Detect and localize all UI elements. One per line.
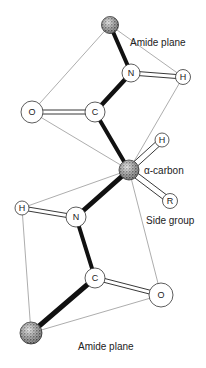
backbone-bonds: [31, 25, 131, 333]
atom-h-top: H: [176, 70, 191, 85]
atom-c-bottom: C: [85, 268, 105, 288]
svg-text:N: N: [128, 68, 135, 78]
atom-n-top: N: [122, 64, 140, 82]
peptide-diagram: N H O C H R H N C O Amide plane α-carbon…: [0, 0, 206, 368]
alpha-carbon-mid: [119, 160, 139, 180]
atom-h-alpha: H: [155, 133, 169, 147]
atom-n-bottom: N: [66, 207, 86, 227]
svg-text:H: H: [19, 203, 26, 213]
atom-o-bottom: O: [149, 283, 173, 307]
svg-text:N: N: [73, 212, 80, 222]
amide-plane-bottom-outline: [22, 170, 161, 333]
svg-text:O: O: [28, 107, 35, 117]
label-amide-plane-top: Amide plane: [130, 37, 186, 48]
label-alpha-carbon: α-carbon: [144, 165, 184, 176]
atom-h-bottom: H: [15, 201, 29, 215]
svg-text:H: H: [159, 135, 166, 145]
svg-text:R: R: [167, 196, 174, 206]
label-side-group: Side group: [146, 215, 195, 226]
alpha-carbon-top: [102, 17, 119, 34]
diagram-canvas: N H O C H R H N C O Amide plane α-carbon…: [0, 0, 206, 368]
atom-c-top: C: [85, 102, 105, 122]
atom-o-top: O: [21, 101, 43, 123]
svg-text:C: C: [92, 273, 99, 283]
alpha-carbon-bottom: [20, 322, 42, 344]
label-amide-plane-bottom: Amide plane: [78, 341, 134, 352]
svg-text:O: O: [157, 290, 164, 300]
atom-r-side-group: R: [163, 194, 178, 209]
svg-text:H: H: [180, 72, 187, 82]
svg-text:C: C: [92, 107, 99, 117]
